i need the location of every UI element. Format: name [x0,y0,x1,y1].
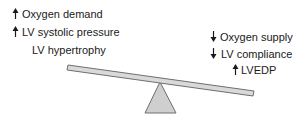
label-lv-compliance: LV compliance [221,48,292,61]
label-lv-hypertrophy: LV hypertrophy [32,44,106,57]
arrow-up-icon [13,8,19,19]
fulcrum-triangle [145,82,176,113]
label-oxygen-supply: Oxygen supply [220,31,293,44]
label-lv-systolic-pressure: LV systolic pressure [22,26,120,39]
arrow-up-icon [233,64,239,75]
arrow-up-icon [13,26,19,37]
arrow-down-icon [211,31,217,42]
arrow-down-icon [211,48,217,59]
label-lvedp: LVEDP [241,64,276,77]
label-oxygen-demand: Oxygen demand [22,8,103,21]
